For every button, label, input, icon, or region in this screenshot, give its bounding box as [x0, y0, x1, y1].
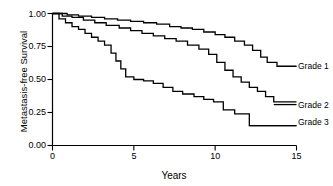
x-tick-label-0: 0: [43, 152, 63, 161]
curve-grade-3: [53, 14, 297, 126]
y-axis-ticks: [48, 14, 53, 146]
survival-curve-figure: 1.00 0.75 0.50 0.25 0.00 0 5 10 15 Metas…: [0, 0, 333, 186]
label-leader-lines: [249, 66, 296, 125]
x-tick-label-15: 15: [287, 152, 307, 161]
y-axis-title: Metastasis-free Survival: [18, 7, 29, 157]
x-tick-label-10: 10: [205, 152, 225, 161]
survival-curves: [53, 14, 297, 126]
series-label-grade-2: Grade 2: [298, 101, 329, 110]
series-label-grade-3: Grade 3: [298, 118, 329, 127]
x-axis-title: Years: [52, 170, 296, 181]
x-axis-ticks: [53, 146, 297, 151]
curve-grade-1: [53, 14, 297, 67]
x-tick-label-5: 5: [124, 152, 144, 161]
series-label-grade-1: Grade 1: [298, 62, 329, 71]
